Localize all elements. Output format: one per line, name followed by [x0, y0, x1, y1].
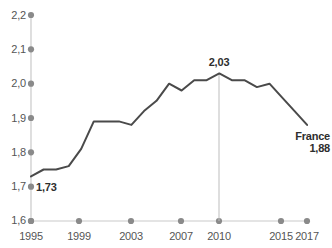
y-axis-label-1-6: 1,6 [2, 214, 26, 226]
y-tick-dot-1-8 [28, 149, 34, 155]
y-tick-dot-2-1 [28, 46, 34, 52]
x-tick-dot-2017 [304, 218, 310, 224]
y-axis-label-1-8: 1,8 [2, 146, 26, 158]
france-fertility-line [31, 73, 307, 176]
x-axis-label-2003: 2003 [109, 230, 153, 242]
y-tick-dot-1-7 [28, 184, 34, 190]
fertility-rate-line-chart: 2,2 2,1 2,0 1,9 1,8 1,7 1,6 1995 1999 20… [0, 0, 332, 248]
y-axis-label-2-2: 2,2 [2, 9, 26, 21]
x-tick-dot-2003 [128, 218, 134, 224]
x-axis-label-1999: 1999 [57, 230, 101, 242]
x-tick-dot-2015 [278, 218, 284, 224]
x-axis-label-2017: 2017 [285, 230, 329, 242]
y-axis-label-2-1: 2,1 [2, 43, 26, 55]
series-end-value: 1,88 [248, 142, 330, 154]
series-name: France [248, 130, 330, 142]
x-axis-label-2010: 2010 [197, 230, 241, 242]
chart-plot-area [0, 0, 332, 248]
y-axis-label-1-7: 1,7 [2, 180, 26, 192]
y-tick-dot-2-0 [28, 81, 34, 87]
x-tick-dot-2007 [178, 218, 184, 224]
x-tick-dot-1999 [76, 218, 82, 224]
annotation-peak-value: 2,03 [199, 56, 239, 68]
series-end-label: France 1,88 [248, 130, 330, 154]
annotation-start-value: 1,73 [36, 181, 57, 193]
y-axis-label-2-0: 2,0 [2, 77, 26, 89]
x-tick-dot-1995 [28, 218, 34, 224]
y-tick-dot-1-9 [28, 115, 34, 121]
x-axis-label-1995: 1995 [9, 230, 53, 242]
y-tick-dot-2-2 [28, 12, 34, 18]
y-axis-label-1-9: 1,9 [2, 112, 26, 124]
